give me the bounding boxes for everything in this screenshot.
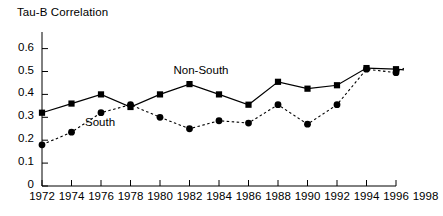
series-annotation-non-south: Non-South — [174, 64, 229, 76]
y-axis-tick-label: 0.1 — [8, 155, 34, 167]
data-point-non-south — [216, 91, 222, 97]
data-point-non-south — [304, 86, 310, 92]
x-axis-ticks — [42, 180, 404, 186]
data-point-south — [127, 101, 134, 108]
data-point-south — [68, 129, 75, 136]
series-annotation-south: South — [85, 116, 115, 128]
data-point-non-south — [334, 82, 340, 88]
y-axis-tick-label: 0.2 — [8, 132, 34, 144]
y-axis-tick-label: 0 — [8, 178, 34, 190]
axis-lines — [42, 32, 396, 186]
y-axis-ticks — [42, 49, 48, 186]
x-axis-tick-label: 1998 — [409, 190, 443, 202]
data-point-south — [393, 69, 400, 76]
data-point-non-south — [186, 81, 192, 87]
data-point-non-south — [39, 110, 45, 116]
data-point-south — [334, 101, 341, 108]
data-point-south — [245, 120, 252, 127]
data-point-non-south — [98, 91, 104, 97]
data-point-non-south — [157, 91, 163, 97]
data-point-south — [363, 66, 370, 73]
y-axis-tick-label: 0.6 — [8, 41, 34, 53]
data-point-south — [304, 121, 311, 128]
data-point-non-south — [275, 79, 281, 85]
data-point-south — [216, 117, 223, 124]
data-point-south — [275, 101, 282, 108]
data-point-south — [186, 125, 193, 132]
data-point-south — [157, 114, 164, 121]
y-axis-tick-label: 0.5 — [8, 64, 34, 76]
data-point-non-south — [245, 102, 251, 108]
y-axis-tick-label: 0.3 — [8, 109, 34, 121]
data-point-non-south — [68, 100, 74, 106]
y-axis-tick-label: 0.4 — [8, 86, 34, 98]
data-point-south — [39, 141, 46, 148]
data-point-south — [98, 109, 105, 116]
